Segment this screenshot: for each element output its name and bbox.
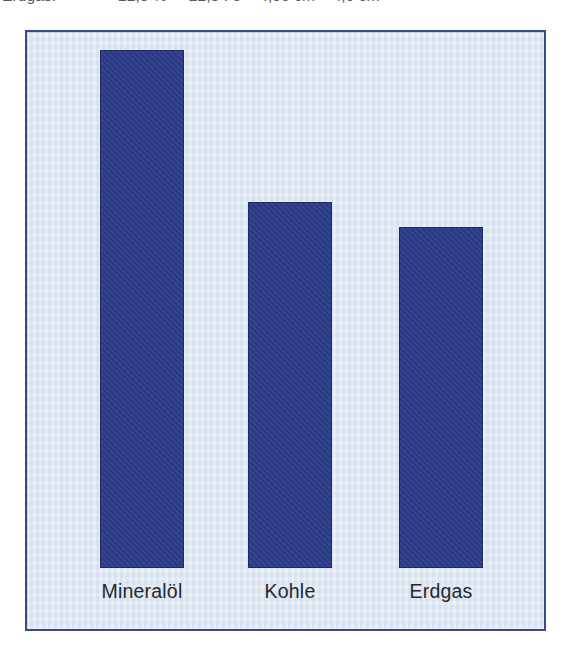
formula-line: Erdgas: 22,8 % ≙ 22,8 : 5 = 4,56 cm ≈ 4,… [0,0,570,13]
bar-1 [100,50,184,568]
bar-label-1: Mineralöl [80,580,204,603]
bar-label-2: Kohle [228,580,352,603]
plot-area: MineralölKohleErdgas [27,32,544,629]
formula-label: Erdgas: [2,0,56,5]
bar-label-3: Erdgas [379,580,503,603]
bar-chart-figure: MineralölKohleErdgas [25,30,546,631]
bar-3 [399,227,483,568]
formula-expression: 22,8 % ≙ 22,8 : 5 = 4,56 cm ≈ 4,6 cm [118,0,380,5]
bar-2 [248,202,332,568]
